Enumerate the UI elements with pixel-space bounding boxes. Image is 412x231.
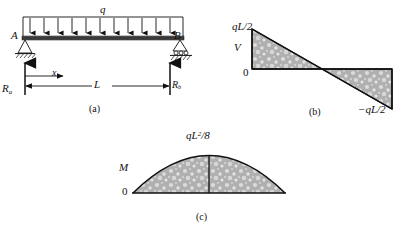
shear-min-label: −qL/2: [358, 104, 386, 115]
support-label-a: A: [11, 30, 18, 41]
roller-support-B: [170, 40, 192, 60]
distributed-load-box: [23, 17, 183, 36]
shear-max-label: qL/2: [232, 21, 252, 32]
pin-support-A: [15, 40, 36, 58]
moment-max-divisor: /8: [201, 129, 210, 141]
axis-label-x: x: [52, 68, 56, 78]
panel-b-shear-diagram: [252, 29, 392, 109]
panel-caption-c: (c): [196, 211, 207, 222]
panel-caption-a: (a): [89, 103, 100, 114]
figure-root: q A B x L Ra Rb (a) qL/2 V 0 −qL/2 (b) q…: [0, 0, 412, 231]
panel-c-moment-diagram: [132, 156, 286, 194]
moment-axis-label: M: [119, 162, 128, 173]
figure-canvas: [0, 0, 412, 231]
reaction-label-right: Rb: [172, 80, 181, 91]
shear-axis-label: V: [234, 42, 241, 53]
span-label-l: L: [94, 79, 100, 90]
reaction-right-subscript: b: [178, 83, 181, 90]
reaction-label-left: Ra: [2, 83, 12, 95]
reaction-left-subscript: a: [9, 88, 12, 95]
panel-a-beam-diagram: [15, 17, 192, 95]
support-label-b: B: [174, 30, 181, 41]
beam-member: [22, 36, 184, 40]
panel-caption-b: (b): [309, 106, 321, 117]
moment-zero-label: 0: [122, 186, 128, 197]
shear-zero-label: 0: [243, 67, 249, 78]
moment-max-label: qL2/8: [186, 130, 210, 141]
load-arrows: [30, 18, 170, 33]
reaction-left-letter: R: [2, 82, 9, 94]
load-label-q: q: [100, 4, 106, 15]
